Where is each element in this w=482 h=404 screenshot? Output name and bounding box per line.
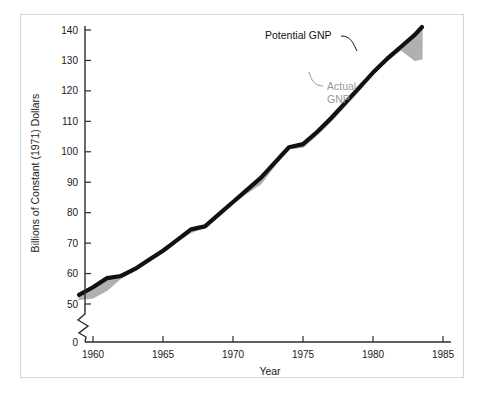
y-tick-label-130: 130 <box>61 55 78 66</box>
x-tick-label-1985: 1985 <box>432 349 455 360</box>
x-tick-label-1960: 1960 <box>82 349 105 360</box>
gnp-chart: 0506070809010011012013014019601965197019… <box>21 15 463 377</box>
annotation-actual-gnp-line2: GNP <box>327 93 350 105</box>
annotation-potential-gnp-leader <box>341 36 357 51</box>
y-tick-label-70: 70 <box>67 238 79 249</box>
x-tick-label-1980: 1980 <box>362 349 385 360</box>
potential-gnp-line <box>79 27 422 295</box>
figure-container: 0506070809010011012013014019601965197019… <box>0 0 482 404</box>
y-tick-label-100: 100 <box>61 146 78 157</box>
y-tick-label-0: 0 <box>72 337 78 348</box>
x-axis-title: Year <box>259 365 281 377</box>
x-tick-label-1965: 1965 <box>152 349 175 360</box>
annotation-potential-gnp: Potential GNP <box>265 29 332 41</box>
y-tick-label-60: 60 <box>67 268 79 279</box>
y-axis-break-symbol <box>78 310 88 342</box>
y-tick-label-90: 90 <box>67 177 79 188</box>
x-tick-label-1975: 1975 <box>292 349 315 360</box>
actual-gnp-band <box>79 27 422 299</box>
y-tick-label-140: 140 <box>61 25 78 36</box>
chart-frame: 0506070809010011012013014019601965197019… <box>20 14 464 378</box>
x-tick-label-1970: 1970 <box>222 349 245 360</box>
annotation-actual-gnp-leader <box>309 72 323 86</box>
y-tick-label-50: 50 <box>67 299 79 310</box>
y-tick-label-110: 110 <box>62 116 78 127</box>
y-tick-label-80: 80 <box>67 207 79 218</box>
y-axis-title: Billions of Constant (1971) Dollars <box>29 94 41 253</box>
annotation-actual-gnp-line1: Actual <box>327 80 356 92</box>
y-tick-label-120: 120 <box>61 85 78 96</box>
